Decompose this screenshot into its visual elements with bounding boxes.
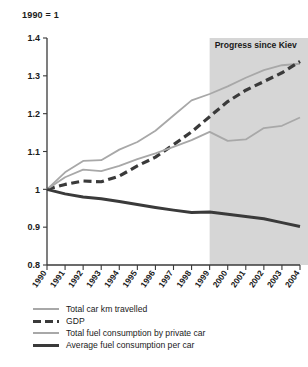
chart-legend: Total car km travelledGDPTotal fuel cons… [33,303,293,351]
x-axis-tick-label: 1998 [174,268,193,289]
y-axis-ticks: 1.41.31.21.110.90.8 [27,33,47,270]
x-axis-ticks: 1990199119921993199419951996199719981999… [30,265,302,289]
x-axis-tick-label: 2003 [265,268,284,289]
legend-item: Total fuel consumption by private car [33,327,293,339]
legend-item: GDP [33,315,293,327]
legend-item: Total car km travelled [33,303,293,315]
x-axis-tick-label: 1994 [102,268,121,289]
light-thin-line-icon [33,303,59,315]
x-axis-tick-label: 2001 [229,268,248,289]
y-axis-tick-label: 0.8 [27,260,40,270]
progress-since-kiev-label: Progress since Kiev [215,40,297,50]
y-axis-tick-label: 0.9 [27,222,40,232]
y-axis-tick-label: 1.3 [27,71,40,81]
x-axis-tick-label: 1995 [120,268,139,289]
legend-item-label: Total fuel consumption by private car [66,328,205,339]
y-axis-tick-label: 1 [35,185,40,195]
legend-item: Average fuel consumption per car [33,339,293,351]
dark-dashed-line-icon [33,315,59,327]
y-axis-tick-label: 1.4 [27,33,40,43]
x-axis-tick-label: 2002 [247,268,266,289]
x-axis-tick-label: 1992 [66,268,85,289]
x-axis-tick-label: 1993 [84,268,103,289]
legend-item-label: Average fuel consumption per car [66,340,194,351]
legend-item-label: GDP [66,316,85,327]
x-axis-tick-label: 2004 [283,268,302,289]
dark-thick-line-icon [33,339,59,351]
light-thin-line-icon [33,327,59,339]
x-axis-tick-label: 1999 [192,268,211,289]
x-axis-tick-label: 1997 [156,268,175,289]
chart-container: 1990 = 1 Progress since Kiev 1.41.31.21.… [0,0,308,367]
x-axis-tick-label: 1990 [30,268,49,289]
y-axis-tick-label: 1.1 [27,147,40,157]
x-axis-tick-label: 1996 [138,268,157,289]
x-axis-tick-label: 1991 [48,268,67,289]
x-axis-tick-label: 2000 [210,268,229,289]
y-axis-tick-label: 1.2 [27,109,40,119]
legend-item-label: Total car km travelled [66,304,147,315]
